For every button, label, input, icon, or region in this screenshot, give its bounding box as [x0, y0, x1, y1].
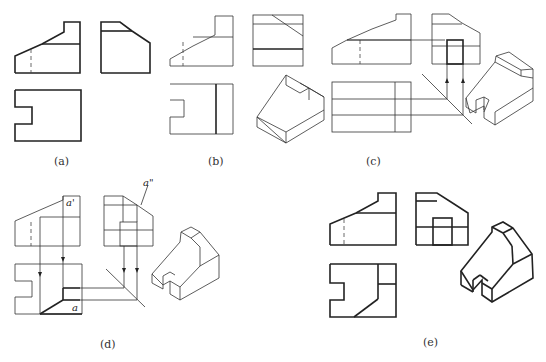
panel-b-side-view [253, 15, 303, 66]
panel-e-front-view [330, 193, 396, 245]
panel-b-front-view [170, 16, 233, 66]
panel-d-projection-lines [38, 217, 145, 314]
panel-c-side-view [432, 14, 480, 115]
panel-a-front-view [15, 22, 80, 73]
panel-e-isometric [461, 222, 533, 302]
panel-b-top-view [170, 84, 233, 134]
panel-e-top-view [330, 264, 396, 317]
panel-b-isometric [257, 75, 324, 143]
panel-d-isometric [152, 227, 219, 300]
panel-c-top-view [332, 74, 472, 132]
label-a-prime: a' [66, 197, 75, 208]
panel-c-front-view [332, 14, 411, 64]
caption-a: (a) [54, 155, 69, 168]
panel-c-isometric [466, 52, 533, 125]
caption-d: (d) [100, 338, 116, 351]
label-a: a [72, 302, 78, 313]
technical-drawing [0, 0, 546, 362]
panel-a-top-view [15, 90, 81, 141]
caption-b: (b) [208, 155, 224, 168]
caption-c: (c) [366, 155, 381, 168]
caption-e: (e) [423, 336, 438, 349]
panel-a-side-view [101, 22, 150, 73]
panel-d-side-view [104, 185, 153, 246]
panel-e-side-view [416, 193, 468, 245]
label-a-double-prime: a" [143, 177, 154, 188]
